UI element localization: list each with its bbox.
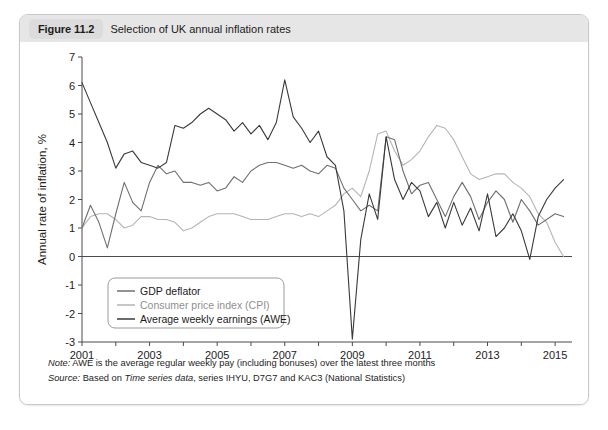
- y-tick-label: -2: [65, 308, 75, 320]
- source-text-b: , series IHYU, D7G7 and KAC3 (National S…: [193, 373, 405, 383]
- y-tick-label: 2: [69, 194, 75, 206]
- source-prefix: Source:: [48, 373, 80, 383]
- y-axis-title: Annual rate of inflation, %: [36, 134, 48, 265]
- y-tick-label: 7: [69, 51, 75, 63]
- legend-label-1: GDP deflator: [140, 285, 201, 297]
- y-tick-label: -1: [65, 279, 75, 291]
- y-tick-label: -3: [65, 336, 75, 348]
- line-chart: 76543210-1-2-3Annual rate of inflation, …: [20, 42, 589, 405]
- legend-label-2: Consumer price index (CPI): [140, 299, 270, 311]
- series-line-gdp-deflator: [82, 137, 564, 248]
- figure-number-badge: Figure 11.2: [29, 19, 103, 39]
- note-line: Note: AWE is the average regular weekly …: [48, 356, 568, 371]
- y-tick-label: 0: [69, 251, 75, 263]
- y-tick-label: 1: [69, 222, 75, 234]
- figure-caption-bar: Figure 11.2 Selection of UK annual infla…: [20, 15, 589, 43]
- legend-label-3: Average weekly earnings (AWE): [140, 313, 291, 325]
- y-tick-label: 6: [69, 80, 75, 92]
- source-line: Source: Based on Time series data, serie…: [48, 371, 568, 386]
- source-text-a: Based on: [80, 373, 124, 383]
- source-italic-title: Time series data: [125, 373, 194, 383]
- figure-title: Selection of UK annual inflation rates: [110, 23, 290, 35]
- y-tick-label: 4: [69, 137, 75, 149]
- figure-notes: Note: AWE is the average regular weekly …: [48, 356, 568, 386]
- note-prefix: Note:: [48, 358, 70, 368]
- figure-page: Figure 11.2 Selection of UK annual infla…: [0, 0, 608, 430]
- figure-card: Figure 11.2 Selection of UK annual infla…: [19, 14, 589, 405]
- note-text: AWE is the average regular weekly pay (i…: [70, 358, 435, 368]
- y-tick-label: 5: [69, 108, 75, 120]
- chart-plot-area: 76543210-1-2-3Annual rate of inflation, …: [20, 42, 589, 405]
- y-tick-label: 3: [69, 165, 75, 177]
